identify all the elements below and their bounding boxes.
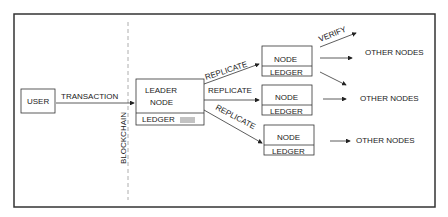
node-ledger-1: LEDGER <box>270 68 303 77</box>
replicate-label-1: REPLICATE <box>204 60 249 82</box>
node-label-2: NODE <box>275 93 298 102</box>
leader-label-line2: NODE <box>150 98 173 107</box>
node-ledger-3: LEDGER <box>272 147 305 156</box>
blockchain-diagram: BLOCKCHAIN USER TRANSACTION LEADER NODE … <box>0 0 448 217</box>
replicate-label-3: REPLICATE <box>214 103 257 132</box>
other-nodes-1: OTHER NODES <box>365 48 424 57</box>
verify-label: VERIFY <box>317 24 348 43</box>
blockchain-label: BLOCKCHAIN <box>119 112 128 164</box>
transaction-label: TRANSACTION <box>61 92 119 101</box>
node-ledger-2: LEDGER <box>270 107 303 116</box>
other-arrow-1b <box>320 72 346 85</box>
other-nodes-2: OTHER NODES <box>360 94 419 103</box>
replicate-label-2: REPLICATE <box>208 86 252 95</box>
other-nodes-3: OTHER NODES <box>356 136 415 145</box>
leader-label-line1: LEADER <box>145 86 177 95</box>
node-label-3: NODE <box>277 133 300 142</box>
user-label: USER <box>27 97 49 106</box>
leader-ledger-label: LEDGER <box>142 115 175 124</box>
node-label-1: NODE <box>274 55 297 64</box>
